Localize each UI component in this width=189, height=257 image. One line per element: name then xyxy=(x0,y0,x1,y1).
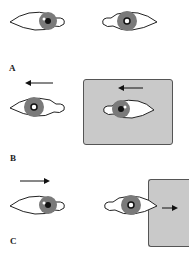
eye-c-right xyxy=(101,190,161,220)
eye-b-left xyxy=(8,92,68,122)
eye-a-right xyxy=(99,6,159,36)
label-a: A xyxy=(9,63,16,73)
arrow-right-icon xyxy=(162,205,178,211)
label-c: C xyxy=(10,236,17,246)
arrow-left-icon xyxy=(118,85,144,91)
eye-a-left xyxy=(8,6,68,36)
arrow-right-icon xyxy=(20,178,50,184)
eye-b-right xyxy=(100,96,156,126)
label-b: B xyxy=(10,153,16,163)
arrow-left-icon xyxy=(25,80,55,86)
eye-c-left xyxy=(8,190,68,220)
